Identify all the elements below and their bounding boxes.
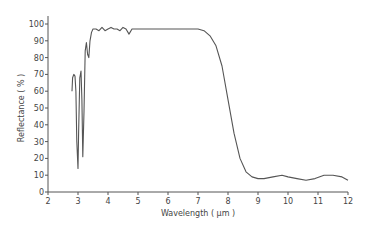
x-tick-label: 4	[105, 197, 110, 206]
y-tick-label: 60	[34, 87, 44, 96]
y-tick-label: 30	[34, 138, 44, 147]
x-axis-title: Wavelength ( µm )	[161, 209, 235, 218]
x-tick-label: 8	[225, 197, 230, 206]
x-tick-label: 6	[165, 197, 170, 206]
reflectance-curve	[72, 27, 348, 180]
x-tick-label: 2	[45, 197, 50, 206]
x-tick-label: 12	[343, 197, 353, 206]
y-tick-label: 80	[34, 54, 44, 63]
x-tick-label: 5	[135, 197, 140, 206]
y-tick-label: 40	[34, 121, 44, 130]
y-axis-title: Reflectance ( % )	[17, 74, 26, 142]
x-tick-label: 3	[75, 197, 80, 206]
x-tick-label: 9	[255, 197, 260, 206]
x-tick-label: 10	[283, 197, 293, 206]
y-tick-label: 100	[29, 20, 44, 29]
x-tick-label: 7	[195, 197, 200, 206]
y-tick-label: 50	[34, 104, 44, 113]
x-tick-label: 11	[313, 197, 323, 206]
y-tick-label: 0	[39, 188, 44, 197]
y-tick-label: 20	[34, 154, 44, 163]
reflectance-chart: 010203040506070809010023456789101112Wave…	[0, 0, 368, 229]
plot-area: 010203040506070809010023456789101112Wave…	[0, 0, 368, 229]
y-tick-label: 70	[34, 70, 44, 79]
y-tick-label: 10	[34, 171, 44, 180]
y-tick-label: 90	[34, 37, 44, 46]
